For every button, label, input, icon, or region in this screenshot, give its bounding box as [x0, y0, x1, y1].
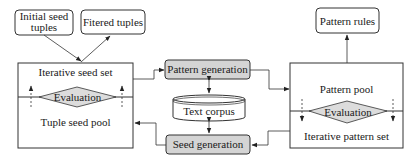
tuple-seed-pool-label: Tuple seed pool	[18, 116, 133, 128]
filtered-tuples-label: Fitered tuples	[81, 16, 145, 28]
iterative-pattern-set-label: Iterative pattern set	[290, 130, 403, 142]
pattern-generation-label: Pattern generation	[165, 63, 250, 75]
right-evaluation-label: Evaluation	[309, 106, 387, 118]
seed-generation-label: Seed generation	[166, 138, 250, 150]
arrow-patternset-to-seedgen	[252, 131, 290, 145]
pattern-rules-label: Pattern rules	[316, 15, 379, 27]
arrow-seedgen-to-tuplepool	[135, 123, 166, 145]
arrow-seedset-to-filtered	[81, 36, 110, 62]
arrow-seedset-to-patterngen	[133, 70, 164, 79]
iterative-seed-set-label: Iterative seed set	[18, 66, 133, 78]
pattern-pool-label: Pattern pool	[290, 83, 403, 95]
initial-seed-tuples-label: Initial seed tuples	[15, 11, 73, 33]
text-corpus-label: Text corpus	[173, 105, 245, 117]
left-evaluation-label: Evaluation	[39, 91, 116, 103]
arrow-patterngen-to-patternpool	[250, 70, 289, 89]
arrow-initial-to-seedset	[44, 35, 81, 61]
